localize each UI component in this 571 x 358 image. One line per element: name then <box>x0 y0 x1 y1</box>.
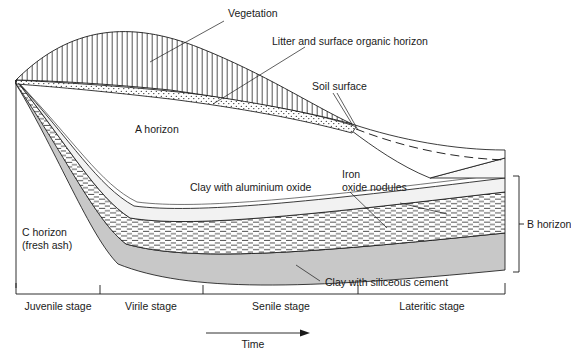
label-a-horizon: A horizon <box>135 123 179 135</box>
stage-label-senile: Senile stage <box>252 300 310 312</box>
label-time: Time <box>242 338 265 350</box>
label-b-horizon: B horizon <box>527 218 571 230</box>
stage-label-lateritic: Lateritic stage <box>399 300 465 312</box>
diagram-canvas: Vegetation Litter and surface organic ho… <box>0 0 571 358</box>
stage-label-virile: Virile stage <box>125 300 177 312</box>
label-iron-line1: Iron <box>342 168 360 180</box>
label-clay-aluminium: Clay with aluminium oxide <box>190 181 312 193</box>
label-c-horizon-line2: (fresh ash) <box>22 239 72 251</box>
label-clay-siliceous: Clay with siliceous cement <box>325 276 448 288</box>
label-c-horizon-line1: C horizon <box>22 226 67 238</box>
label-iron-line2: oxide nodules <box>342 181 407 193</box>
stage-label-juvenile: Juvenile stage <box>24 300 91 312</box>
label-litter: Litter and surface organic horizon <box>272 35 428 47</box>
label-soil-surface: Soil surface <box>312 80 367 92</box>
label-vegetation: Vegetation <box>228 7 278 19</box>
soil-development-diagram: Vegetation Litter and surface organic ho… <box>0 0 571 358</box>
